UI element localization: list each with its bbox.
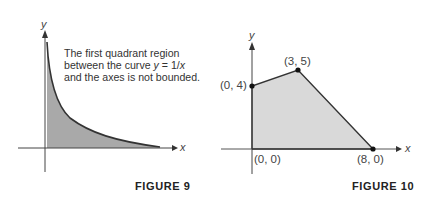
figures-canvas [0, 0, 434, 203]
fig10-y-axis-label: y [249, 30, 255, 41]
label-point-0-4: (0, 4) [220, 80, 247, 92]
vertex-3-5 [295, 67, 300, 72]
figure-10-caption: FIGURE 10 [352, 181, 414, 192]
fig9-y-axis-label: y [41, 19, 47, 30]
vertex-0-4 [249, 83, 254, 88]
figure-9-caption: FIGURE 9 [135, 181, 191, 192]
annotation-line-1: The first quadrant region [64, 47, 200, 59]
x-axis-arrow-icon [172, 145, 178, 151]
vertex-8-0 [370, 146, 375, 151]
label-point-3-5: (3, 5) [284, 56, 311, 68]
y-axis-arrow-icon [42, 30, 48, 38]
label-point-0-0: (0, 0) [254, 154, 281, 166]
fig10-x-axis-label: x [405, 143, 411, 154]
y-axis-arrow-icon [249, 42, 255, 50]
fig9-annotation: The first quadrant region between the cu… [64, 47, 200, 83]
x-axis-arrow-icon [396, 146, 402, 152]
annotation-line-3: and the axes is not bounded. [64, 71, 200, 83]
label-point-8-0: (8, 0) [357, 154, 384, 166]
annotation-line-2: between the curve y = 1/x [64, 59, 200, 71]
feasible-region-fill [252, 70, 373, 149]
fig9-x-axis-label: x [180, 142, 186, 153]
